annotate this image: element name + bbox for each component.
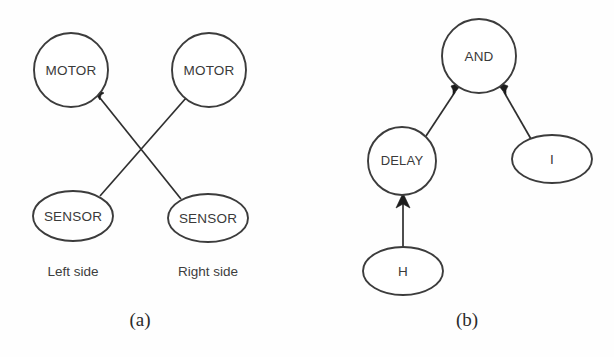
panel-b: AND DELAY I H (b): [363, 19, 592, 331]
node-label: SENSOR: [44, 209, 102, 224]
edge-sensor-left-to-motor-right: [100, 86, 196, 196]
edge-line: [100, 98, 186, 196]
caption-a: (a): [129, 309, 150, 331]
edge-line: [100, 98, 181, 199]
right-side-label: Right side: [178, 264, 238, 279]
node-label: MOTOR: [184, 63, 235, 78]
node-label: DELAY: [381, 153, 424, 168]
figure-container: MOTOR MOTOR SENSOR SENSOR Left side Righ…: [0, 0, 614, 357]
edge-sensor-right-to-motor-left: [90, 86, 181, 199]
edge-line: [504, 92, 531, 139]
diagram-canvas: MOTOR MOTOR SENSOR SENSOR Left side Righ…: [0, 0, 614, 357]
edge-h-to-delay: [396, 193, 410, 247]
node-label: AND: [464, 49, 493, 64]
edge-delay-to-and: [426, 81, 464, 136]
node-label: SENSOR: [179, 211, 237, 226]
edge-i-to-and: [495, 81, 531, 139]
node-delay[interactable]: DELAY: [368, 127, 436, 195]
caption-b: (b): [456, 309, 478, 331]
node-motor-left[interactable]: MOTOR: [34, 33, 108, 107]
node-and-gate[interactable]: AND: [442, 19, 516, 93]
edge-line: [426, 92, 455, 136]
node-input-h[interactable]: H: [363, 247, 443, 295]
node-motor-right[interactable]: MOTOR: [172, 33, 246, 107]
node-label: H: [398, 264, 408, 279]
left-side-label: Left side: [47, 264, 98, 279]
panel-a: MOTOR MOTOR SENSOR SENSOR Left side Righ…: [33, 33, 248, 331]
node-sensor-right[interactable]: SENSOR: [168, 194, 248, 242]
panel-a-edges: [90, 86, 196, 199]
node-sensor-left[interactable]: SENSOR: [33, 191, 113, 241]
node-label: MOTOR: [46, 63, 97, 78]
node-label: I: [550, 152, 554, 167]
node-input-i[interactable]: I: [512, 135, 592, 183]
